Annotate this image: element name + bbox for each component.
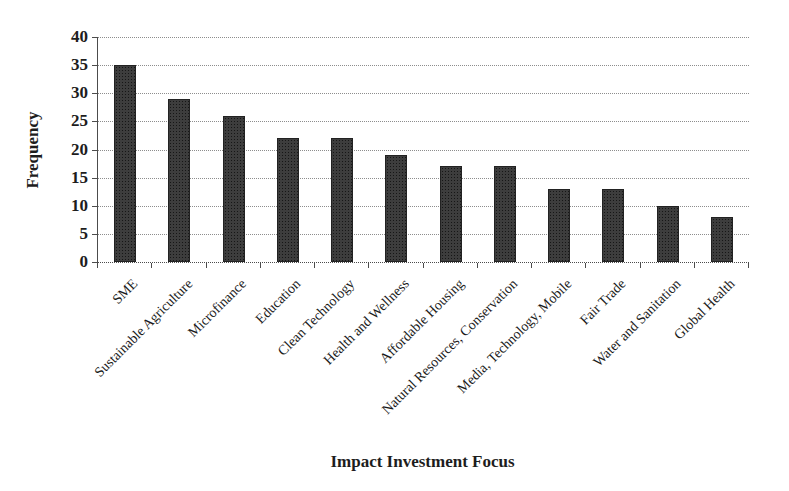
x-tick-mark xyxy=(423,263,424,268)
y-tick-mark xyxy=(92,206,97,207)
x-tick-mark xyxy=(151,263,152,268)
x-category-label: Media, Technology, Mobile xyxy=(455,276,575,396)
bar xyxy=(548,189,570,262)
bar xyxy=(657,206,679,262)
bar xyxy=(440,166,462,262)
x-tick-mark xyxy=(368,263,369,268)
x-tick-mark xyxy=(477,263,478,268)
y-tick-label: 10 xyxy=(52,197,88,215)
bar xyxy=(277,138,299,262)
gridline xyxy=(98,93,749,94)
bar xyxy=(114,65,136,262)
y-tick-mark xyxy=(92,234,97,235)
bar xyxy=(711,217,733,262)
x-axis-title: Impact Investment Focus xyxy=(97,452,748,472)
y-tick-mark xyxy=(92,178,97,179)
bar-chart-figure: Frequency 0510152025303540SMESustainable… xyxy=(0,0,789,491)
y-tick-label: 5 xyxy=(52,225,88,243)
x-tick-mark xyxy=(314,263,315,268)
x-tick-mark xyxy=(206,263,207,268)
y-axis-title: Frequency xyxy=(23,111,43,188)
x-tick-mark xyxy=(585,263,586,268)
y-tick-label: 30 xyxy=(52,84,88,102)
x-category-label: Fair Trade xyxy=(577,276,629,328)
bar xyxy=(168,99,190,262)
x-tick-mark xyxy=(260,263,261,268)
gridline xyxy=(98,234,749,235)
gridline xyxy=(98,121,749,122)
y-tick-mark xyxy=(92,37,97,38)
y-tick-mark xyxy=(92,121,97,122)
bar xyxy=(331,138,353,262)
gridline xyxy=(98,206,749,207)
y-tick-mark xyxy=(92,65,97,66)
y-tick-label: 35 xyxy=(52,56,88,74)
bar xyxy=(385,155,407,262)
y-tick-label: 20 xyxy=(52,141,88,159)
x-tick-mark xyxy=(531,263,532,268)
y-tick-mark xyxy=(92,93,97,94)
x-tick-mark xyxy=(640,263,641,268)
x-tick-mark xyxy=(97,263,98,268)
y-tick-label: 25 xyxy=(52,112,88,130)
x-category-label: Sustainable Agriculture xyxy=(91,276,195,380)
gridline xyxy=(98,150,749,151)
y-tick-label: 0 xyxy=(52,253,88,271)
y-tick-label: 40 xyxy=(52,28,88,46)
bar xyxy=(223,116,245,262)
x-tick-mark xyxy=(748,263,749,268)
gridline xyxy=(98,178,749,179)
x-category-label: SME xyxy=(110,276,141,307)
y-tick-label: 15 xyxy=(52,169,88,187)
gridline xyxy=(98,37,749,38)
gridline xyxy=(98,65,749,66)
x-category-label: Education xyxy=(253,276,304,327)
x-tick-mark xyxy=(694,263,695,268)
bar xyxy=(494,166,516,262)
plot-area xyxy=(97,37,749,263)
bar xyxy=(602,189,624,262)
y-tick-mark xyxy=(92,150,97,151)
